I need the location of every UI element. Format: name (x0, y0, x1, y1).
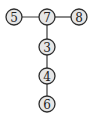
node-label: 4 (43, 70, 51, 84)
node-label: 3 (43, 41, 51, 55)
node-5: 5 (6, 9, 22, 25)
tree-diagram: 5 7 8 3 4 6 (0, 0, 94, 118)
node-7: 7 (39, 9, 55, 25)
node-label: 5 (10, 11, 18, 25)
node-label: 6 (43, 98, 51, 112)
node-8: 8 (71, 9, 87, 25)
node-6: 6 (39, 96, 55, 112)
node-4: 4 (39, 68, 55, 84)
edges (14, 17, 79, 104)
node-label: 7 (43, 11, 51, 25)
node-label: 8 (75, 11, 83, 25)
node-3: 3 (39, 39, 55, 55)
